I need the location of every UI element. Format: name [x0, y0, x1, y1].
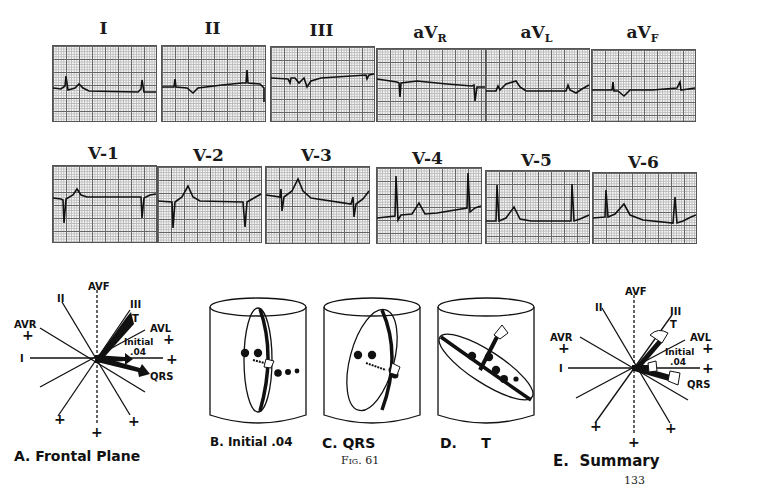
caption-d: D. T [440, 435, 491, 451]
ecg-strip-v4 [376, 167, 482, 244]
ecg-strip-v3 [265, 166, 370, 244]
ecg-strip-v2 [157, 166, 262, 243]
lead-label-avr: aVR [376, 22, 484, 45]
svg-text:+: + [91, 424, 103, 440]
ecg-strip-v6 [592, 172, 697, 244]
page-number: 133 [624, 474, 645, 487]
svg-text:+: + [128, 413, 140, 429]
svg-text:+: + [22, 327, 34, 343]
caption-c: C. QRS [322, 435, 375, 451]
axis-label-iii: III [130, 299, 141, 310]
ecg-strip-v1 [52, 165, 157, 243]
svg-text:+: + [665, 420, 677, 436]
lead-label-v2: V-2 [157, 145, 260, 165]
lead-label-ii: II [161, 18, 264, 38]
svg-text:Initial: Initial [665, 347, 694, 357]
axis-label-avf: AVF [88, 281, 110, 292]
svg-text:+: + [590, 418, 602, 434]
svg-text:+: + [163, 331, 175, 347]
svg-text:I: I [559, 363, 563, 374]
cylinder-qrs [322, 295, 422, 430]
figure-label: Fig. 61 [341, 454, 379, 467]
axis-label-i: I [20, 353, 24, 364]
ecg-strip-iii [270, 46, 375, 122]
lead-label-i: I [52, 18, 155, 38]
svg-text:QRS: QRS [687, 379, 710, 390]
label-initial-04: .04 [130, 347, 146, 357]
lead-label-v3: V-3 [265, 145, 368, 165]
ecg-strip-avr [376, 48, 486, 122]
svg-text:+: + [702, 360, 714, 376]
ecg-strip-avl [485, 48, 590, 122]
frontal-plane-diagram: AVF II III T AVR + AVL + Initial .04 I +… [0, 280, 200, 450]
svg-text:+: + [702, 340, 714, 356]
lead-label-avl: aVL [485, 22, 588, 45]
ecg-strip-ii [161, 45, 266, 122]
svg-text:III: III [670, 306, 681, 317]
svg-text:+: + [54, 411, 66, 427]
lead-label-iii: III [270, 20, 373, 40]
svg-text:.04: .04 [670, 357, 686, 367]
lead-label-v5: V-5 [485, 150, 588, 170]
svg-text:+: + [628, 434, 640, 450]
lead-label-avf: aVF [591, 22, 694, 45]
cylinder-initial-04 [208, 295, 308, 430]
lead-label-v4: V-4 [376, 148, 479, 168]
lead-label-v6: V-6 [592, 152, 695, 172]
svg-text:II: II [595, 302, 602, 313]
summary-axis-avf: AVF [625, 286, 647, 297]
svg-text:+: + [558, 340, 570, 356]
ecg-strip-i [52, 45, 157, 122]
label-initial: Initial [124, 337, 153, 347]
label-qrs: QRS [150, 371, 173, 382]
caption-a: A. Frontal Plane [14, 448, 140, 464]
caption-e: E. Summary [553, 452, 659, 470]
svg-text:+: + [166, 351, 178, 367]
axis-label-t: T [132, 313, 139, 324]
ecg-strip-v5 [485, 170, 590, 244]
summary-diagram: AVF II III T AVR + AVL + Initial .04 I +… [540, 285, 757, 450]
ecg-strip-avf [591, 49, 696, 122]
lead-label-v1: V-1 [52, 143, 155, 163]
cylinder-t [436, 295, 536, 430]
svg-text:T: T [670, 319, 677, 330]
caption-b: B. Initial .04 [210, 435, 293, 449]
axis-label-ii: II [57, 293, 64, 304]
